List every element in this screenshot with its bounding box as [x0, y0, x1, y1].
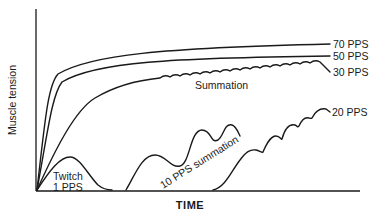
label-20-pps: 20 PPS	[332, 106, 368, 118]
chart-canvas: 70 PPS 50 PPS 30 PPS Summation 20 PPS Tw…	[0, 0, 385, 218]
label-70-pps: 70 PPS	[333, 38, 369, 50]
curve-20-pps	[213, 109, 330, 190]
y-axis-title: Muscle tension	[6, 65, 18, 135]
label-1-pps: 1 PPS	[53, 181, 83, 193]
x-axis-title: TIME	[176, 199, 204, 211]
label-10-pps-summation: 10 PPS summation	[158, 133, 241, 191]
label-30-pps: 30 PPS	[333, 66, 369, 78]
label-50-pps: 50 PPS	[333, 50, 369, 62]
curve-10-pps-summation	[126, 125, 240, 190]
label-summation: Summation	[195, 79, 248, 91]
